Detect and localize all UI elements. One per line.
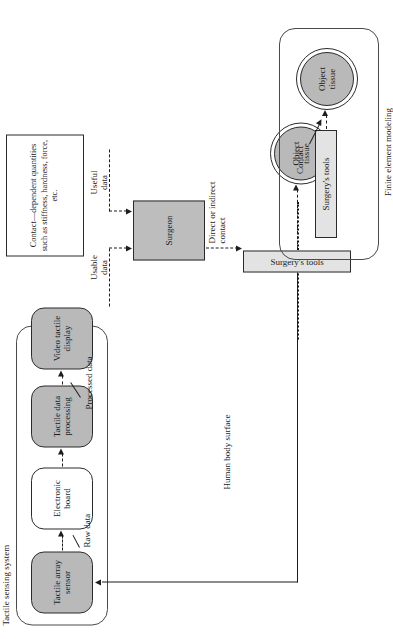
label-human-body-surface: Human body surface: [222, 414, 232, 489]
edge-sensor-to-board-arrowhead: [58, 530, 64, 536]
group-tactile-sensing-system-label: Tactile sensing system: [1, 544, 11, 625]
node-object-tissue-body: Object tissue: [274, 126, 328, 180]
node-tactile-data-processing-line2: processing: [62, 397, 72, 436]
node-surgeon: Surgeon: [133, 200, 205, 260]
edge-label-processed-data: Processed data: [84, 356, 94, 409]
edge-label-direct-or: Direct or: [207, 211, 217, 243]
node-surgeon-label: Surgeon: [164, 215, 174, 245]
edge-label-raw-data: Raw data: [82, 513, 92, 547]
edge-label-usable-data-line1: Usable: [89, 255, 99, 280]
feedback-line-vertical: [102, 581, 298, 582]
edge-direct-indirect-contact: [206, 247, 238, 248]
edge-useful-data-v: [109, 210, 127, 211]
node-tactile-array-sensor: Tactile array sensor: [31, 551, 93, 613]
node-object-tissue-body-line2: tissue: [301, 143, 311, 164]
node-tactile-array-sensor-line1: Tactile array: [52, 559, 62, 604]
edge-label-usable-data: Usable data: [89, 247, 110, 287]
edge-usable-data-v: [109, 247, 127, 248]
node-surgery-tools-body: Surgery's tools: [243, 250, 351, 272]
group-finite-element-modeling-label: Finite element modeling: [383, 108, 393, 196]
node-surgery-tools-body-label: Surgery's tools: [270, 256, 323, 266]
textbox-contact-dependent-quantities: Contact—dependent quantities such as sti…: [6, 134, 84, 256]
edge-tools-to-tissue-body: [297, 189, 298, 249]
node-object-tissue-body-line1: Object: [291, 141, 301, 165]
edge-tools-to-tissue-body-arrowhead: [293, 184, 299, 190]
edge-label-useful-data-line2: data: [99, 175, 109, 190]
edge-board-to-processing: [62, 453, 63, 466]
node-video-tactile-display-line2: display: [62, 325, 72, 351]
edge-processing-to-display-arrowhead: [58, 370, 64, 376]
edge-label-usable-data-line2: data: [99, 260, 109, 275]
edge-useful-data-arrowhead: [126, 209, 132, 215]
edge-label-direct-indirect-contact: Direct or indirect contact: [207, 169, 228, 243]
node-tactile-data-processing-line1: Tactile data: [52, 395, 62, 437]
node-electronic-board-line1: Electronic: [52, 480, 62, 517]
edge-label-useful-data: Useful data: [89, 162, 110, 202]
node-video-tactile-display-line1: Video tactile: [52, 315, 62, 361]
node-electronic-board-line2: board: [62, 488, 72, 509]
edge-usable-data-arrowhead: [126, 246, 132, 252]
edge-label-useful-data-line1: Useful: [89, 170, 99, 194]
edge-board-to-processing-arrowhead: [58, 448, 64, 454]
edge-direct-indirect-contact-arrowhead: [236, 246, 242, 252]
feedback-line-arrowhead: [95, 580, 101, 586]
feedback-line-horizontal: [297, 272, 298, 582]
edge-sensor-to-board: [62, 535, 63, 550]
node-tactile-array-sensor-line2: sensor: [62, 571, 72, 594]
textbox-contact-dependent-quantities-text: Contact—dependent quantities such as sti…: [29, 139, 61, 251]
